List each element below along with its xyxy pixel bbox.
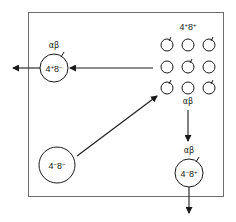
cd8-single-positive-cell: αβ 4−8+ [175, 146, 203, 187]
dp-cell [203, 39, 215, 51]
cd4-receptor-label: αβ [49, 41, 59, 50]
tcr-receptor-icon [196, 157, 199, 162]
dp-cell [161, 39, 173, 51]
arrow-dn-to-dp [77, 96, 157, 156]
double-positive-label: 4+8+ [179, 22, 197, 32]
double-negative-cell: 4−8− [39, 147, 75, 183]
double-negative-label: 4−8− [48, 161, 66, 171]
grid-receptor-label: αβ [183, 97, 193, 106]
dp-cell [182, 61, 194, 73]
dp-cell [161, 61, 173, 73]
dp-cell [182, 82, 194, 94]
cd4-cell-label: 4+8− [45, 64, 63, 74]
cd4-single-positive-cell: αβ 4+8− [40, 41, 68, 82]
dp-cell [182, 39, 194, 51]
dp-cell [203, 61, 215, 73]
double-positive-cluster [161, 37, 215, 94]
cd8-cell-label: 4−8+ [180, 169, 198, 179]
cd8-receptor-label: αβ [184, 146, 194, 155]
thymus-diagram: 4+8+ αβ αβ 4+8− αβ 4−8+ 4−8− [0, 0, 236, 222]
dp-cell [203, 82, 215, 94]
dp-cell [161, 82, 173, 94]
tcr-receptor-icon [61, 52, 64, 57]
